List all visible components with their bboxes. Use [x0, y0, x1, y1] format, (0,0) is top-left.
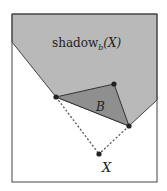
- point-x: [96, 151, 101, 156]
- triangle-label: B: [95, 100, 105, 114]
- shadow-region: [12, 14, 157, 126]
- point-x-label: X: [101, 160, 112, 175]
- shadow-label: shadowb(X): [52, 36, 122, 52]
- diagram-canvas: shadowb(X) B X: [0, 0, 167, 191]
- dashed-line-right: [99, 126, 129, 154]
- vertex-left: [53, 94, 58, 99]
- vertex-right: [126, 123, 131, 128]
- vertex-top: [111, 81, 116, 86]
